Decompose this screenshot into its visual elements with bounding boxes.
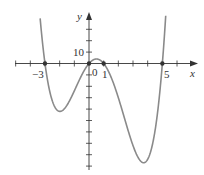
x-tick-label-neg3: −3 <box>32 68 44 80</box>
root-point <box>160 61 164 65</box>
y-tick-label-10: 10 <box>73 46 85 58</box>
x-axis-arrow-icon <box>190 61 198 67</box>
y-axis-arrow-icon <box>86 12 92 20</box>
y-axis-label: y <box>76 10 82 22</box>
x-tick-label-0: 0 <box>92 66 98 78</box>
x-tick-label-5: 5 <box>164 68 170 80</box>
function-curve <box>40 16 166 163</box>
function-graph: x y 10 −3 0 1 5 <box>0 0 204 175</box>
root-point <box>87 61 91 65</box>
root-point <box>43 61 47 65</box>
x-tick-label-1: 1 <box>102 68 108 80</box>
x-axis-label: x <box>189 67 195 79</box>
root-point <box>101 61 105 65</box>
